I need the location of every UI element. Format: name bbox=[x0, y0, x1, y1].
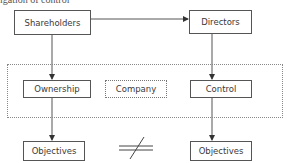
node-shareholders: Shareholders bbox=[14, 10, 91, 35]
node-control: Control bbox=[190, 80, 252, 98]
node-label: Shareholders bbox=[24, 18, 80, 28]
node-label: Objectives bbox=[32, 146, 77, 156]
node-directors: Directors bbox=[189, 10, 252, 34]
node-label: Control bbox=[206, 84, 237, 94]
node-label: Company bbox=[116, 84, 156, 94]
node-label: Objectives bbox=[199, 146, 244, 156]
not-equal-icon bbox=[119, 137, 153, 159]
node-objectives-left: Objectives bbox=[23, 141, 85, 161]
node-label: Ownership bbox=[34, 84, 79, 94]
node-company: Company bbox=[105, 80, 167, 98]
node-objectives-right: Objectives bbox=[190, 141, 252, 161]
node-label: Directors bbox=[201, 17, 240, 27]
node-ownership: Ownership bbox=[23, 80, 91, 98]
